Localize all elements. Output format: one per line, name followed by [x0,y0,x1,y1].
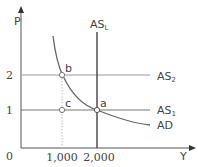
x-tick-2000: 2,000 [83,151,115,164]
as1-label: AS1 [157,104,176,118]
x-axis-arrow-icon [189,145,196,151]
y-tick-1: 1 [6,104,13,117]
origin-label: 0 [6,150,13,163]
label-point-a: a [100,97,107,110]
point-a [94,107,99,112]
y-axis-label: P [14,15,21,28]
asl-label: ASL [90,18,109,32]
ad-curve [53,36,150,125]
as2-label: AS2 [157,70,176,84]
y-tick-2: 2 [6,69,13,82]
y-axis-arrow-icon [18,6,24,13]
x-axis-label: Y [179,150,187,163]
label-point-c: c [65,97,71,110]
as-ad-diagram: b c a P Y 0 2 1 1,000 2,000 ASL AS2 AS1 … [0,0,198,167]
point-b [59,72,64,77]
ad-label: AD [157,119,173,132]
x-tick-1000: 1,000 [46,151,78,164]
label-point-b: b [65,62,72,75]
point-c [59,107,64,112]
